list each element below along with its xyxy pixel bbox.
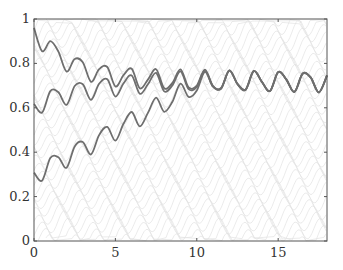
plot-lines (34, 28, 327, 181)
x-tick-label: 10 (189, 245, 206, 260)
x-tick-label: 15 (270, 245, 287, 260)
background-line (34, 101, 326, 125)
background-line (34, 108, 326, 132)
x-tick-label: 0 (30, 245, 38, 260)
background-texture (34, 19, 326, 241)
background-line (34, 197, 326, 220)
y-tick-label: 0.6 (9, 100, 30, 115)
background-line (46, 233, 326, 241)
y-tick-label: 0 (22, 233, 30, 248)
y-tick-label: 0.4 (9, 144, 30, 159)
y-tick-label: 0.2 (9, 189, 30, 204)
background-line (34, 153, 326, 177)
background-line (34, 42, 326, 66)
background-line (34, 204, 326, 228)
x-tick-label: 5 (111, 245, 119, 260)
y-tick-label: 0.8 (9, 55, 30, 70)
background-line (34, 145, 326, 169)
y-tick-label: 1 (22, 11, 30, 26)
chart: 051015 00.20.40.60.81 (0, 0, 343, 270)
